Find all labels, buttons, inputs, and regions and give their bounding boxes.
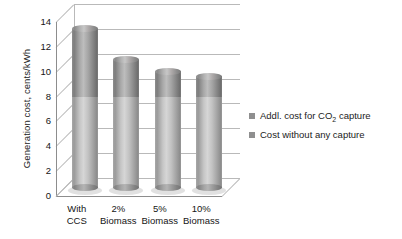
bar-segment-capture-cost (113, 60, 139, 97)
y-axis-tick-label: 2 (29, 165, 51, 176)
bar-segment-base-cost (196, 97, 222, 188)
legend-swatch-icon (249, 132, 255, 138)
x-axis-tick-label-line: Biomass (174, 215, 228, 227)
bar-segment-base-cost (113, 97, 139, 188)
x-axis-tick-label-line: 10% (174, 203, 228, 215)
y-axis-tick-label: 0 (29, 190, 51, 201)
bar-segment-base-cost (155, 97, 181, 188)
chart-figure: Generation cost, cents/kWh 02468101214Wi… (0, 0, 402, 239)
legend-label-suffix: capture (336, 110, 370, 121)
legend-label-prefix: Addl. cost for CO (260, 110, 332, 121)
bar-top-cap (155, 68, 181, 75)
floor-right-edge (222, 178, 241, 197)
y-axis-tick-label: 10 (29, 66, 51, 77)
bar-segment-base-cost (72, 97, 98, 188)
bar-segment-capture-cost (72, 29, 98, 97)
bar-top-cap (196, 73, 222, 80)
y-axis-tick-label: 6 (29, 115, 51, 126)
bar-segment-capture-cost (155, 71, 181, 97)
x-axis-tick-label: 10%Biomass (174, 203, 228, 226)
y-axis-tick-label: 12 (29, 41, 51, 52)
legend-label-prefix: Cost without any capture (260, 129, 365, 140)
legend-label: Addl. cost for CO2 capture (260, 110, 371, 123)
y-axis-tick-label: 8 (29, 91, 51, 102)
y-axis-line (56, 22, 57, 197)
legend-item-base-cost: Cost without any capture (249, 129, 365, 142)
legend-swatch-icon (249, 113, 255, 119)
legend-label: Cost without any capture (260, 129, 365, 142)
y-axis-tick-label: 4 (29, 140, 51, 151)
legend-item-addl-cost: Addl. cost for CO2 capture (249, 110, 371, 123)
y-axis-tick-label: 14 (29, 16, 51, 27)
